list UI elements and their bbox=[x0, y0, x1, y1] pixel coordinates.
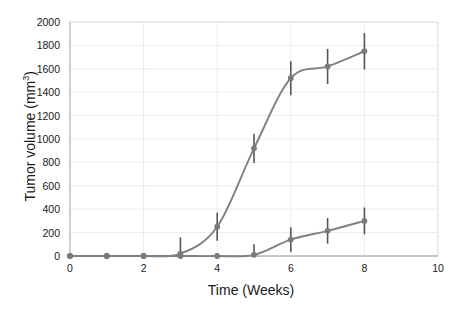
data-point-marker bbox=[251, 252, 257, 258]
data-point-marker bbox=[362, 218, 368, 224]
data-point-marker bbox=[214, 224, 220, 230]
data-point-marker bbox=[325, 228, 331, 234]
data-point-marker bbox=[141, 253, 147, 259]
x-tick-label: 2 bbox=[124, 262, 164, 274]
x-axis-label: Time (Weeks) bbox=[70, 282, 432, 298]
x-tick-label: 4 bbox=[197, 262, 237, 274]
x-tick-label: 8 bbox=[344, 262, 384, 274]
data-point-marker bbox=[362, 48, 368, 54]
data-point-marker bbox=[104, 253, 110, 259]
data-point-marker bbox=[288, 237, 294, 243]
data-point-marker bbox=[178, 253, 184, 259]
data-point-marker bbox=[288, 75, 294, 81]
x-tick-label: 10 bbox=[418, 262, 452, 274]
tumor-growth-chart: Tumor volume (mm3) 020040060080010001200… bbox=[0, 0, 452, 309]
data-point-marker bbox=[251, 145, 257, 151]
x-tick-label: 6 bbox=[271, 262, 311, 274]
data-point-marker bbox=[214, 253, 220, 259]
x-tick-label: 0 bbox=[50, 262, 90, 274]
data-point-marker bbox=[325, 64, 331, 70]
data-point-marker bbox=[67, 253, 73, 259]
